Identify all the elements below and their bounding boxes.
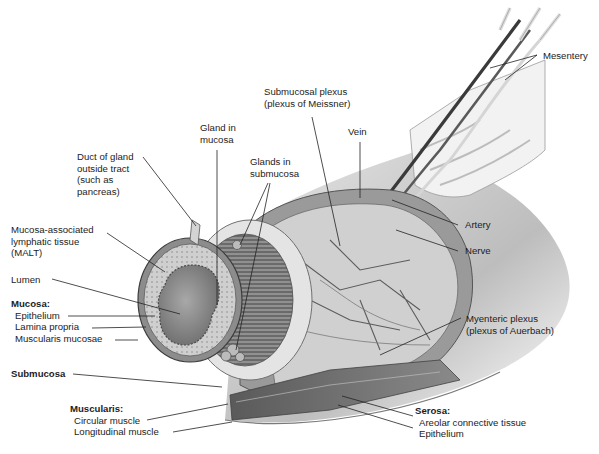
muscularis-circular: Circular muscle	[70, 415, 159, 427]
glands-in-submucosa-line2: submucosa	[250, 168, 299, 180]
muscularis-longitudinal: Longitudinal muscle	[70, 426, 159, 438]
myenteric-line2: (plexus of Auerbach)	[466, 325, 554, 337]
label-serosa-group: Serosa: Areolar connective tissue Epithe…	[415, 405, 526, 440]
duct-line4: pancreas)	[77, 186, 134, 198]
submucosa-text: Submucosa	[11, 368, 65, 379]
mucosa-epithelium: Epithelium	[11, 310, 102, 322]
duct-line2: outside tract	[77, 163, 134, 175]
artery-text: Artery	[465, 219, 491, 230]
label-submucosa: Submucosa	[11, 368, 65, 380]
serosa-header: Serosa:	[415, 405, 526, 417]
label-artery: Artery	[465, 219, 491, 231]
malt-line1: Mucosa-associated	[11, 224, 94, 236]
serosa-epithelium: Epithelium	[415, 428, 526, 440]
lumen-text: Lumen	[11, 274, 40, 285]
malt-line2: lymphatic tissue	[11, 236, 94, 248]
submucosal-plexus-line2: (plexus of Meissner)	[264, 98, 350, 110]
label-myenteric-plexus: Myenteric plexus (plexus of Auerbach)	[466, 313, 554, 336]
duct-line3: (such as	[77, 174, 134, 186]
label-vein: Vein	[348, 126, 367, 138]
gland-in-mucosa-line2: mucosa	[200, 134, 236, 146]
duct-line1: Duct of gland	[77, 151, 134, 163]
muscularis-header: Muscularis:	[70, 403, 159, 415]
label-submucosal-plexus: Submucosal plexus (plexus of Meissner)	[264, 86, 350, 109]
submucosal-plexus-line1: Submucosal plexus	[264, 86, 350, 98]
mucosa-header: Mucosa:	[11, 298, 102, 310]
vein-text: Vein	[348, 126, 367, 137]
myenteric-line1: Myenteric plexus	[466, 313, 554, 325]
glands-in-submucosa-line1: Glands in	[250, 156, 299, 168]
label-duct-of-gland: Duct of gland outside tract (such as pan…	[77, 151, 134, 197]
nerve-text: Nerve	[465, 245, 491, 256]
mucosa-muscularis-mucosae: Muscularis mucosae	[11, 333, 102, 345]
mesentery-sheet	[410, 60, 545, 197]
label-nerve: Nerve	[465, 245, 491, 257]
label-lumen: Lumen	[11, 274, 40, 286]
gland-in-mucosa-line1: Gland in	[200, 122, 236, 134]
mucosa-lamina-propria: Lamina propria	[11, 321, 102, 333]
label-muscularis-group: Muscularis: Circular muscle Longitudinal…	[70, 403, 159, 438]
mesentery-text: Mesentery	[543, 50, 588, 61]
label-gland-in-mucosa: Gland in mucosa	[200, 122, 236, 145]
label-glands-in-submucosa: Glands in submucosa	[250, 156, 299, 179]
malt-line3: (MALT)	[11, 247, 94, 259]
duct	[190, 220, 200, 245]
serosa-areolar: Areolar connective tissue	[415, 417, 526, 429]
label-mucosa-group: Mucosa: Epithelium Lamina propria Muscul…	[11, 298, 102, 344]
label-mesentery: Mesentery	[543, 50, 588, 62]
label-malt: Mucosa-associated lymphatic tissue (MALT…	[11, 224, 94, 259]
